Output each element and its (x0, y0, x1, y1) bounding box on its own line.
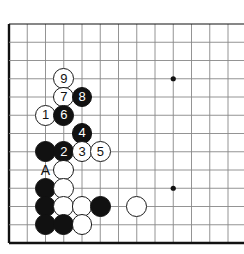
move-stone-5: 5 (90, 141, 111, 162)
stone-move-number: 9 (60, 72, 67, 85)
stone-move-number: 8 (78, 90, 85, 103)
stone-white (126, 196, 147, 217)
stone-move-number: 7 (60, 90, 67, 103)
stone-black (90, 196, 111, 217)
stone-move-number: 3 (78, 145, 85, 158)
stone-move-number: 2 (60, 145, 67, 158)
go-board-diagram: 978164235 A (0, 0, 244, 254)
point-label-a: A (37, 161, 55, 179)
stone-move-number: 5 (97, 145, 104, 158)
move-stone-6: 6 (53, 105, 74, 126)
board-grid (0, 0, 244, 254)
star-point (171, 76, 176, 81)
stone-move-number: 4 (78, 126, 85, 139)
star-point (171, 186, 176, 191)
stone-move-number: 6 (60, 108, 67, 121)
stone-move-number: 1 (42, 108, 49, 121)
